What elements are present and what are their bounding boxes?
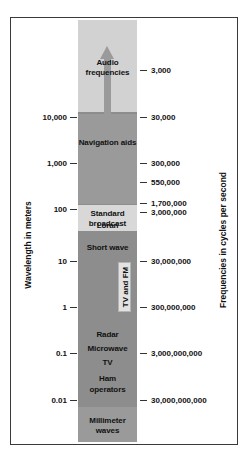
band-label-microwave: Microwave <box>78 344 137 354</box>
tick-label-left-5: 0.1 <box>56 349 67 358</box>
tick-label-left-4: 1 <box>63 303 67 312</box>
tick-right-4 <box>140 203 147 204</box>
tick-left-6 <box>70 400 77 401</box>
band-label-tv: TV <box>78 358 137 368</box>
tick-label-right-9: 30,000,000,000 <box>151 396 207 405</box>
band-navigation-aids <box>78 114 137 204</box>
tick-left-3 <box>70 261 77 262</box>
tick-label-right-5: 3,000,000 <box>151 208 187 217</box>
band-label-loran: Loran <box>78 221 137 231</box>
tick-right-6 <box>140 261 147 262</box>
tick-right-9 <box>140 400 147 401</box>
tick-left-2 <box>70 209 77 210</box>
tick-label-right-3: 550,000 <box>151 178 180 187</box>
tick-label-right-0: 3,000 <box>151 66 171 75</box>
tick-label-right-8: 3,000,000,000 <box>151 349 202 358</box>
band-label-millimeter-waves: Millimeter waves <box>78 416 137 436</box>
tick-left-0 <box>70 117 77 118</box>
tick-right-5 <box>140 212 147 213</box>
tick-label-left-2: 100 <box>54 205 67 214</box>
tick-left-4 <box>70 307 77 308</box>
tick-label-right-4: 1,700,000 <box>151 199 187 208</box>
band-label-ham-operators: operators <box>78 385 137 395</box>
band-label-audio-frequencies: Audio frequencies <box>78 58 137 78</box>
tick-right-1 <box>140 117 147 118</box>
axis-title-frequency: Frequencies in cycles per second <box>218 172 228 308</box>
axis-title-wavelength: Wavelength in meters <box>23 201 33 289</box>
spectrum-column: Audio frequencies Navigation aids Standa… <box>78 20 137 442</box>
tick-label-right-1: 30,000 <box>151 113 175 122</box>
band-label-ham: Ham <box>78 374 137 384</box>
tick-label-right-7: 300,000,000 <box>151 303 196 312</box>
tick-right-2 <box>140 163 147 164</box>
tick-left-5 <box>70 353 77 354</box>
band-label-radar: Radar <box>78 330 137 340</box>
tick-label-left-3: 10 <box>58 257 67 266</box>
annotation-label-tv-and-fm: TV and FM <box>120 267 129 307</box>
band-label-navigation-aids: Navigation aids <box>78 138 137 148</box>
tick-label-right-6: 30,000,000 <box>151 257 191 266</box>
tick-right-8 <box>140 353 147 354</box>
tick-label-left-6: 0.01 <box>51 396 67 405</box>
tick-right-7 <box>140 307 147 308</box>
tick-label-left-1: 1,000 <box>47 159 67 168</box>
tick-label-left-0: 10,000 <box>43 113 67 122</box>
tick-right-0 <box>140 70 147 71</box>
annotation-tv-and-fm: TV and FM <box>118 262 131 312</box>
band-label-short-wave: Short wave <box>78 243 137 253</box>
tick-label-right-2: 300,000 <box>151 159 180 168</box>
tick-right-3 <box>140 182 147 183</box>
tick-left-1 <box>70 163 77 164</box>
spectrum-chart: Audio frequencies Navigation aids Standa… <box>0 0 249 459</box>
